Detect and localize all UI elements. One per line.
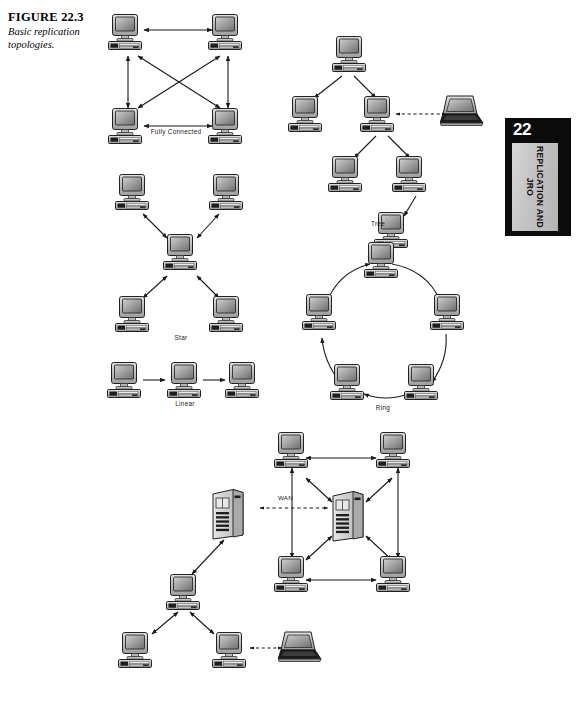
workstation-icon (328, 156, 364, 194)
topology-label-star: Star (160, 334, 202, 341)
workstation-hub-icon (163, 234, 199, 272)
workstation-icon (108, 108, 144, 146)
chapter-tab-plate: REPLICATION AND JRO (512, 143, 558, 231)
workstation-icon (212, 632, 248, 670)
workstation-icon (209, 174, 245, 212)
workstation-icon (274, 432, 310, 470)
tree-links (280, 36, 480, 236)
figure-number: FIGURE 22.3 (8, 10, 104, 24)
topology-label-ring: Ring (362, 404, 404, 411)
topology-label-linear: Linear (163, 400, 207, 407)
server-icon (330, 490, 368, 544)
topology-tree: Tree (280, 36, 480, 236)
workstation-icon (167, 362, 203, 400)
workstation-icon (302, 294, 338, 332)
workstation-icon (108, 14, 144, 52)
workstation-icon (118, 632, 154, 670)
workstation-icon (360, 96, 396, 134)
topology-label-tree: Tree (358, 220, 398, 227)
workstation-icon (404, 364, 440, 402)
topology-label-fully-connected: Fully Connected (144, 128, 208, 135)
workstation-icon (332, 36, 368, 74)
workstation-icon (115, 296, 151, 334)
workstation-icon (274, 556, 310, 594)
workstation-icon (392, 156, 428, 194)
figure-caption-block: FIGURE 22.3 Basic replication topologies… (8, 10, 104, 51)
workstation-icon (225, 362, 261, 400)
wan-link-label: WAN (278, 494, 293, 501)
workstation-icon (430, 294, 466, 332)
workstation-icon (376, 556, 412, 594)
topology-hybrid: WAN (110, 432, 440, 682)
chapter-title: REPLICATION AND JRO (512, 143, 558, 231)
figure-caption-text: Basic replication topologies. (8, 26, 98, 51)
workstation-icon (330, 364, 366, 402)
laptop-icon (440, 94, 486, 128)
figure-page: FIGURE 22.3 Basic replication topologies… (0, 0, 578, 705)
workstation-icon (288, 96, 324, 134)
workstation-icon (208, 14, 244, 52)
topology-star: Star (105, 170, 265, 340)
workstation-icon (166, 574, 202, 612)
workstation-icon (115, 174, 151, 212)
workstation-icon (107, 362, 143, 400)
workstation-icon (208, 108, 244, 146)
laptop-icon (278, 630, 324, 664)
workstation-icon (364, 242, 400, 280)
server-icon (210, 488, 248, 542)
topology-ring: Ring (300, 242, 480, 422)
chapter-number: 22 (513, 120, 531, 140)
chapter-thumb-tab: 22 REPLICATION AND JRO (505, 118, 571, 236)
topology-fully-connected: Fully Connected (100, 12, 270, 147)
topology-linear: Linear (103, 362, 263, 414)
workstation-icon (209, 296, 245, 334)
workstation-icon (376, 432, 412, 470)
